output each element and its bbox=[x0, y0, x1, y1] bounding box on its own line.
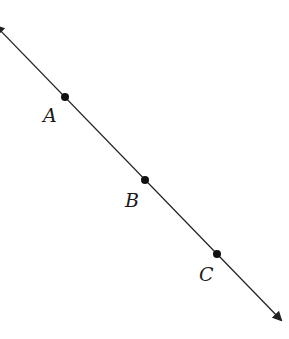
line-diagram bbox=[0, 0, 289, 339]
point-b-dot bbox=[141, 176, 149, 184]
point-b-label: B bbox=[125, 191, 139, 210]
point-c-dot bbox=[213, 250, 221, 258]
point-a-label: A bbox=[43, 106, 57, 125]
diagram-canvas: A B C bbox=[0, 0, 289, 339]
point-a-dot bbox=[61, 93, 69, 101]
line bbox=[0, 26, 281, 320]
point-c-label: C bbox=[199, 265, 214, 284]
